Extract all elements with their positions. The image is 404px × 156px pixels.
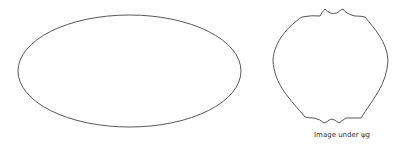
- original-ellipse: [18, 15, 241, 127]
- image-caption: Image under ψg: [300, 131, 384, 139]
- distorted-image-shape: [273, 9, 388, 123]
